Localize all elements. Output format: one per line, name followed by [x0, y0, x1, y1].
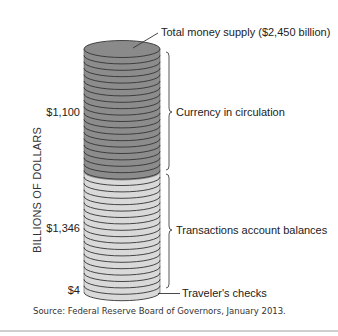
transactions-label: Transactions account balances [176, 224, 327, 237]
currency-label: Currency in circulation [176, 106, 285, 119]
transactions-bracket [166, 174, 172, 288]
total-money-supply-label: Total money supply ($2,450 billion) [161, 26, 330, 39]
currency-value: $1,100 [46, 106, 80, 119]
divider-rule [0, 330, 338, 332]
travelers-checks-label: Traveler's checks [182, 287, 267, 300]
source-note: Source: Federal Reserve Board of Governo… [33, 306, 286, 316]
y-axis-label: BILLIONS OF DOLLARS [31, 127, 43, 253]
coin-stack-coins [84, 41, 160, 301]
travelers-value: $4 [68, 284, 80, 297]
money-supply-figure: Total money supply ($2,450 billion) Curr… [0, 0, 338, 336]
coin-stack [0, 0, 338, 336]
transactions-value: $1,346 [46, 222, 80, 235]
currency-bracket [166, 52, 172, 170]
